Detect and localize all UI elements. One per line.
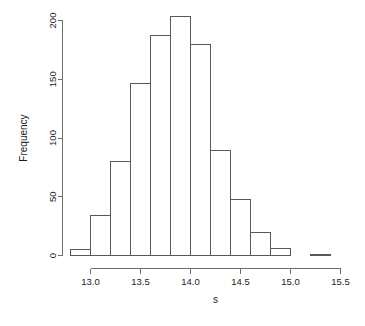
histogram-bar (191, 44, 211, 256)
histogram-bar (111, 162, 131, 256)
y-tick-label: 200 (47, 13, 58, 29)
y-tick-label: 150 (47, 71, 58, 87)
histogram-chart: 050100150200 13.013.514.014.515.015.5 Fr… (0, 0, 365, 326)
histogram-bar (151, 36, 171, 256)
x-tick-label: 14.0 (181, 276, 200, 287)
histogram-bar (71, 250, 91, 256)
x-tick-label: 13.0 (81, 276, 100, 287)
x-tick-label: 15.5 (331, 276, 350, 287)
histogram-bar (271, 248, 291, 255)
histogram-bar (171, 17, 191, 256)
histogram-bar (311, 254, 331, 255)
histogram-plot-root: 050100150200 13.013.514.014.515.015.5 Fr… (0, 0, 365, 326)
y-tick-label: 50 (47, 191, 58, 202)
x-tick-label: 13.5 (131, 276, 150, 287)
y-axis-title: Frequency (18, 114, 29, 161)
histogram-bar (231, 199, 251, 255)
histogram-bar (251, 232, 271, 256)
x-tick-label: 14.5 (231, 276, 250, 287)
histogram-bar (131, 84, 151, 256)
x-tick-label: 15.0 (281, 276, 300, 287)
y-tick-label: 100 (47, 130, 58, 146)
y-tick-label: 0 (47, 253, 58, 258)
x-axis-title: s (213, 294, 218, 305)
histogram-bar (211, 151, 231, 256)
histogram-bar (91, 216, 111, 256)
